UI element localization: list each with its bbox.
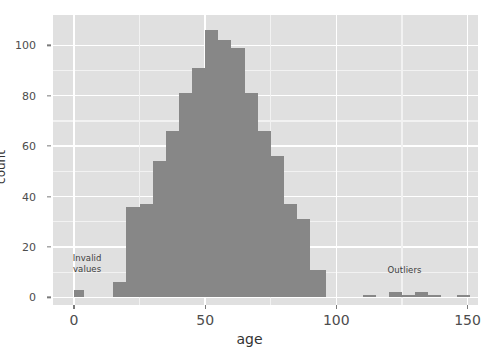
x-tick-label: 150: [454, 312, 481, 328]
histogram-bar: [74, 290, 84, 298]
x-tick-mark: [467, 305, 468, 309]
histogram-bar: [428, 295, 441, 298]
histogram-bar: [284, 204, 297, 297]
x-tick-mark: [205, 305, 206, 309]
y-tick-label: 60: [22, 140, 36, 153]
gridline-x-minor: [401, 15, 402, 305]
x-axis-title: age: [0, 331, 499, 347]
histogram-bar: [126, 207, 139, 298]
x-tick-label: 0: [70, 312, 79, 328]
histogram-bar: [457, 295, 470, 298]
y-tick-label: 40: [22, 190, 36, 203]
x-tick-label: 50: [196, 312, 214, 328]
histogram-bar: [153, 161, 166, 297]
histogram-bar: [192, 68, 205, 297]
gridline-y-major: [53, 45, 478, 46]
y-tick-label: 100: [15, 39, 36, 52]
histogram-bar: [218, 40, 231, 297]
histogram-bar: [271, 156, 284, 297]
histogram-bar: [231, 48, 244, 298]
plot-panel: Invalid valuesOutliers: [53, 15, 478, 305]
y-tick-mark: [47, 246, 51, 247]
histogram-bar: [140, 204, 153, 297]
histogram-bar: [205, 30, 218, 297]
gridline-x-major: [467, 15, 468, 305]
y-tick-label: 0: [29, 291, 36, 304]
histogram-bar: [389, 292, 402, 297]
gridline-x-major: [336, 15, 337, 305]
y-tick-mark: [47, 145, 51, 146]
histogram-bar: [166, 131, 179, 297]
y-tick-mark: [47, 45, 51, 46]
histogram-bar: [113, 282, 126, 297]
histogram-bar: [297, 219, 310, 297]
histogram-figure: Invalid valuesOutliers 020406080100 coun…: [0, 0, 499, 362]
x-tick-label: 100: [323, 312, 350, 328]
histogram-bar: [179, 93, 192, 297]
histogram-bar: [310, 270, 326, 298]
histogram-bar: [258, 131, 271, 297]
x-tick-mark: [336, 305, 337, 309]
histogram-bar: [415, 292, 428, 297]
histogram-bar: [245, 93, 258, 297]
histogram-bar: [363, 295, 376, 298]
annotation-invalid-values: Invalid values: [53, 253, 127, 275]
gridline-y-minor: [53, 120, 478, 121]
y-tick-label: 20: [22, 241, 36, 254]
y-axis-title: count: [0, 150, 8, 184]
x-tick-mark: [73, 305, 74, 309]
y-tick-mark: [47, 95, 51, 96]
y-tick-label: 80: [22, 89, 36, 102]
histogram-bar: [402, 295, 415, 298]
annotation-outliers: Outliers: [365, 265, 445, 276]
y-tick-mark: [47, 297, 51, 298]
gridline-y-minor: [53, 70, 478, 71]
gridline-y-major: [53, 95, 478, 96]
y-tick-mark: [47, 196, 51, 197]
